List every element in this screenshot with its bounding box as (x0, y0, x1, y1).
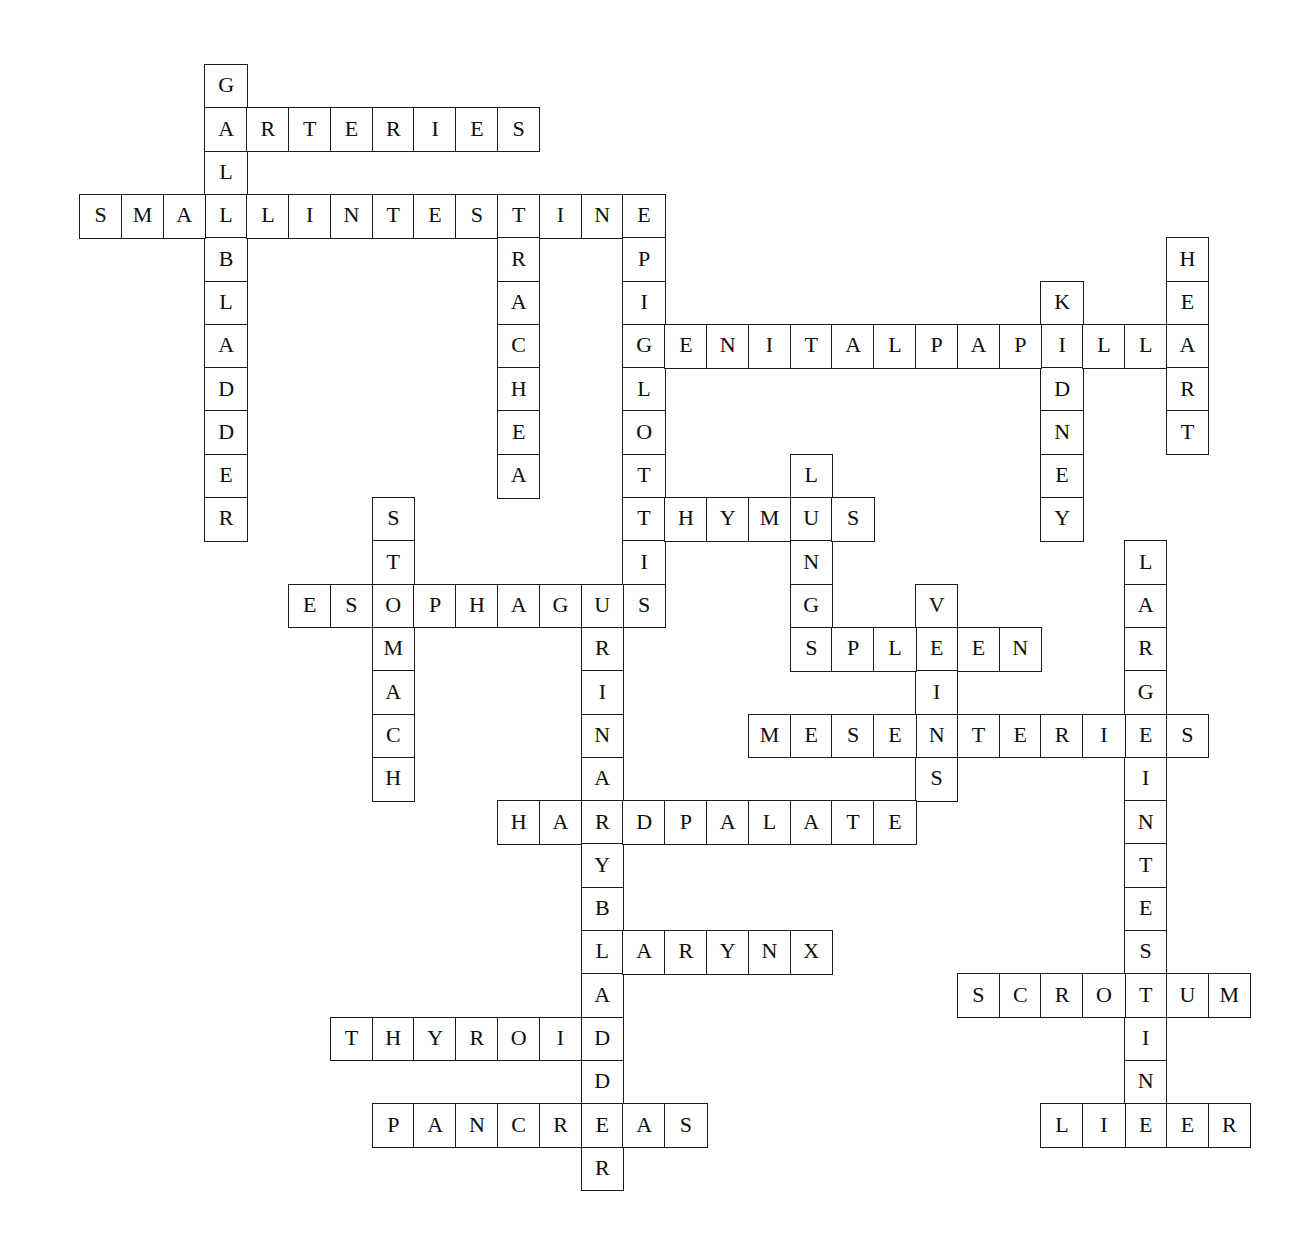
crossword-cell[interactable]: K (1040, 281, 1083, 326)
crossword-cell[interactable]: A (581, 757, 624, 802)
crossword-cell[interactable]: N (581, 714, 624, 759)
crossword-cell[interactable]: I (748, 324, 791, 369)
crossword-cell[interactable]: I (581, 670, 624, 715)
crossword-cell[interactable]: T (1124, 973, 1167, 1018)
crossword-cell[interactable]: L (622, 367, 665, 412)
crossword-cell[interactable]: O (372, 584, 415, 629)
crossword-cell[interactable]: A (372, 670, 415, 715)
crossword-cell[interactable]: T (497, 194, 540, 239)
crossword-cell[interactable]: H (1166, 237, 1209, 282)
crossword-cell[interactable]: V (915, 584, 958, 629)
crossword-cell[interactable]: Y (413, 1017, 456, 1062)
crossword-cell[interactable]: M (372, 627, 415, 672)
crossword-cell[interactable]: R (581, 627, 624, 672)
crossword-cell[interactable]: P (831, 627, 874, 672)
crossword-cell[interactable]: S (831, 497, 874, 542)
crossword-cell[interactable]: E (957, 627, 1000, 672)
crossword-cell[interactable]: E (330, 107, 373, 152)
crossword-cell[interactable]: P (915, 324, 958, 369)
crossword-cell[interactable]: E (1040, 454, 1083, 499)
crossword-cell[interactable]: L (873, 324, 916, 369)
crossword-cell[interactable]: R (581, 800, 624, 845)
crossword-cell[interactable]: L (204, 194, 247, 239)
crossword-cell[interactable]: U (790, 497, 833, 542)
crossword-cell[interactable]: N (1124, 800, 1167, 845)
crossword-cell[interactable]: T (288, 107, 331, 152)
crossword-cell[interactable]: S (915, 757, 958, 802)
crossword-cell[interactable]: H (664, 497, 707, 542)
crossword-cell[interactable]: H (455, 584, 498, 629)
crossword-cell[interactable]: E (204, 454, 247, 499)
crossword-cell[interactable]: E (497, 410, 540, 455)
crossword-cell[interactable]: E (664, 324, 707, 369)
crossword-cell[interactable]: G (622, 324, 665, 369)
crossword-cell[interactable]: T (1124, 843, 1167, 888)
crossword-cell[interactable]: A (622, 1103, 665, 1148)
crossword-cell[interactable]: B (204, 237, 247, 282)
crossword-cell[interactable]: I (915, 670, 958, 715)
crossword-cell[interactable]: T (622, 454, 665, 499)
crossword-cell[interactable]: R (581, 1147, 624, 1192)
crossword-cell[interactable]: R (246, 107, 289, 152)
crossword-cell[interactable]: E (1124, 1103, 1167, 1148)
crossword-cell[interactable]: H (372, 757, 415, 802)
crossword-cell[interactable]: N (790, 540, 833, 585)
crossword-cell[interactable]: O (1082, 973, 1125, 1018)
crossword-cell[interactable]: E (1124, 887, 1167, 932)
crossword-cell[interactable]: D (581, 1017, 624, 1062)
crossword-cell[interactable]: A (204, 324, 247, 369)
crossword-cell[interactable]: C (999, 973, 1042, 1018)
crossword-cell[interactable]: I (622, 540, 665, 585)
crossword-cell[interactable]: T (372, 194, 415, 239)
crossword-cell[interactable]: M (748, 497, 791, 542)
crossword-cell[interactable]: R (1040, 714, 1083, 759)
crossword-cell[interactable]: I (539, 194, 582, 239)
crossword-cell[interactable]: I (1124, 757, 1167, 802)
crossword-cell[interactable]: D (622, 800, 665, 845)
crossword-cell[interactable]: N (581, 194, 624, 239)
crossword-cell[interactable]: E (999, 714, 1042, 759)
crossword-cell[interactable]: T (790, 324, 833, 369)
crossword-cell[interactable]: E (790, 714, 833, 759)
crossword-cell[interactable]: R (664, 930, 707, 975)
crossword-cell[interactable]: A (581, 973, 624, 1018)
crossword-cell[interactable]: H (372, 1017, 415, 1062)
crossword-cell[interactable]: G (539, 584, 582, 629)
crossword-cell[interactable]: Y (706, 497, 749, 542)
crossword-cell[interactable]: O (497, 1017, 540, 1062)
crossword-cell[interactable]: E (1124, 714, 1167, 759)
crossword-cell[interactable]: Y (1040, 497, 1083, 542)
crossword-cell[interactable]: L (1124, 324, 1167, 369)
crossword-cell[interactable]: T (957, 714, 1000, 759)
crossword-cell[interactable]: M (748, 714, 791, 759)
crossword-cell[interactable]: A (790, 800, 833, 845)
crossword-cell[interactable]: A (831, 324, 874, 369)
crossword-cell[interactable]: I (539, 1017, 582, 1062)
crossword-cell[interactable]: S (622, 584, 665, 629)
crossword-cell[interactable]: R (539, 1103, 582, 1148)
crossword-cell[interactable]: D (581, 1060, 624, 1105)
crossword-cell[interactable]: P (999, 324, 1042, 369)
crossword-cell[interactable]: A (622, 930, 665, 975)
crossword-cell[interactable]: D (204, 410, 247, 455)
crossword-cell[interactable]: I (413, 107, 456, 152)
crossword-cell[interactable]: Y (706, 930, 749, 975)
crossword-cell[interactable]: Y (581, 843, 624, 888)
crossword-cell[interactable]: R (455, 1017, 498, 1062)
crossword-cell[interactable]: E (873, 800, 916, 845)
crossword-cell[interactable]: E (915, 627, 958, 672)
crossword-cell[interactable]: L (204, 151, 247, 196)
crossword-cell[interactable]: I (1082, 1103, 1125, 1148)
crossword-cell[interactable]: N (748, 930, 791, 975)
crossword-cell[interactable]: N (330, 194, 373, 239)
crossword-cell[interactable]: G (1124, 670, 1167, 715)
crossword-cell[interactable]: N (1124, 1060, 1167, 1105)
crossword-cell[interactable]: R (497, 237, 540, 282)
crossword-cell[interactable]: A (957, 324, 1000, 369)
crossword-cell[interactable]: C (372, 714, 415, 759)
crossword-cell[interactable]: U (1166, 973, 1209, 1018)
crossword-cell[interactable]: A (706, 800, 749, 845)
crossword-cell[interactable]: N (1040, 410, 1083, 455)
crossword-cell[interactable]: I (288, 194, 331, 239)
crossword-cell[interactable]: S (790, 627, 833, 672)
